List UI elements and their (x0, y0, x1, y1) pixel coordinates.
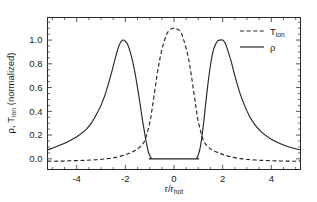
legend-label-rho-main: ρ (270, 42, 276, 53)
x-axis-label-sub: hot (174, 188, 184, 195)
y-axis-label: ρ, Tion (normalized) (5, 52, 17, 133)
chart-figure: -4-2024 0.00.20.40.60.81.0 r/rhot ρ, Tio… (0, 0, 317, 202)
y-axis-label-main: ρ, T (5, 117, 16, 134)
y-tick-label: 0.4 (29, 106, 42, 117)
x-tick-label: -4 (72, 173, 80, 184)
y-axis-label-sub: ion (10, 108, 17, 117)
y-tick-label: 0.6 (29, 82, 42, 93)
y-tick-label: 0.2 (29, 129, 42, 140)
x-tick-label: 0 (171, 173, 176, 184)
x-tick-label: 2 (220, 173, 225, 184)
x-tick-label: -2 (121, 173, 129, 184)
y-tick-label: 0.8 (29, 58, 42, 69)
x-axis-label-main: r/r (165, 183, 174, 194)
legend-label-rho: ρ (270, 42, 276, 53)
y-axis-label-tail: (normalized) (5, 52, 16, 107)
y-tick-label: 0.0 (29, 153, 42, 164)
x-tick-label: 4 (269, 173, 274, 184)
plot-canvas: -4-2024 0.00.20.40.60.81.0 r/rhot ρ, Tio… (0, 0, 317, 202)
y-tick-label: 1.0 (29, 34, 42, 45)
legend-label-tion-sub: ion (276, 31, 285, 38)
